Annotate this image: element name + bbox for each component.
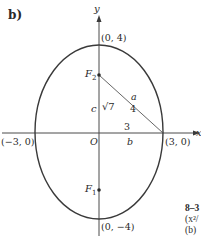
c-value: √7 [102, 102, 115, 112]
y-axis-label: y [94, 4, 100, 14]
focus-f1-label: F1 [85, 184, 96, 197]
focus-f1-dot [97, 188, 101, 192]
x-axis-label: x [196, 128, 201, 138]
right-vertex-label: (3, 0) [165, 137, 191, 147]
left-vertex-label: (−3, 0) [1, 137, 35, 147]
b-value: 3 [124, 122, 130, 132]
c-label: c [91, 104, 97, 114]
origin-label: O [90, 137, 98, 147]
b-label: b [127, 137, 133, 147]
focus-f2-dot [97, 73, 101, 77]
caption-line3: (b) [185, 226, 196, 236]
y-axis-arrow-icon [97, 15, 102, 22]
panel-label: b) [8, 9, 22, 21]
bottom-vertex-label: (0, −4) [101, 222, 135, 232]
focus-f2-label: F2 [85, 69, 96, 82]
caption-line1: 8–3 [185, 204, 199, 214]
caption-line2: (x²/ [185, 215, 198, 225]
a-label: a [131, 92, 137, 102]
top-vertex-label: (0, 4) [101, 33, 127, 43]
a-value: 4 [130, 104, 136, 114]
